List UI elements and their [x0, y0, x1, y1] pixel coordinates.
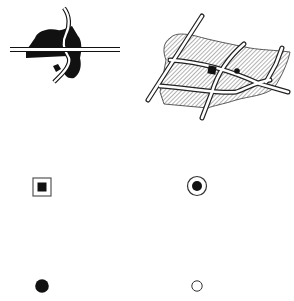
hollow-circle-symbol — [187, 276, 207, 296]
dot-marker — [234, 68, 240, 74]
square-in-square-symbol — [30, 175, 56, 199]
settlement-area — [26, 26, 81, 78]
square-building-marker — [207, 65, 216, 74]
circle-dot-symbol — [185, 174, 209, 198]
filled-dot-symbol — [32, 276, 52, 296]
small-scale-settlement-map — [0, 0, 147, 120]
point-feature — [53, 64, 61, 72]
large-scale-settlement-map — [140, 0, 294, 140]
